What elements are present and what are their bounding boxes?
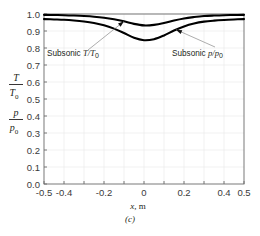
x-tick-label: -0.4 [56, 187, 72, 198]
x-tick-labels: -0.5 -0.4 -0.2 0 0.2 0.4 0.5 [36, 187, 251, 198]
x-tick-label: -0.2 [96, 187, 112, 198]
annotation-subscript-temperature: 0 [95, 52, 99, 59]
figure-caption: (c) [125, 214, 135, 224]
y-tick-label: 0.8 [27, 43, 40, 54]
x-tick-label: 0.2 [177, 187, 190, 198]
chart-canvas: 1.0 0.9 0.8 0.7 0.6 0.5 0.4 0.3 0.2 0.1 … [0, 0, 260, 236]
x-tick-label: 0.4 [217, 187, 230, 198]
y-tick-label: 0.3 [27, 128, 40, 139]
y-tick-labels: 1.0 0.9 0.8 0.7 0.6 0.5 0.4 0.3 0.2 0.1 … [27, 9, 40, 190]
x-tick-label: -0.5 [36, 187, 52, 198]
y-tick-label: 0.5 [27, 94, 40, 105]
annotation-symbol-pressure: p/p [207, 48, 220, 58]
x-axis-title: x, m [129, 201, 146, 211]
y-tick-label: 0.6 [27, 77, 40, 88]
y-axis-num-T: T [13, 72, 20, 83]
y-axis-title-temperature: T T0 [9, 72, 23, 101]
annotation-subscript-pressure: 0 [219, 52, 223, 59]
annotation-text-temperature: Subsonic [47, 49, 81, 58]
y-tick-label: 0.2 [27, 145, 40, 156]
y-axis-title-pressure: p p0 [9, 107, 23, 136]
x-tick-label: 0.5 [237, 187, 250, 198]
y-axis-den-p-sub: 0 [15, 128, 19, 136]
y-tick-label: 0.9 [27, 26, 40, 37]
svg-text:T0: T0 [9, 87, 19, 101]
y-axis-num-p: p [13, 107, 19, 118]
annotation-label-pressure: Subsonic p/p0 [172, 48, 223, 59]
figure-container: 1.0 0.9 0.8 0.7 0.6 0.5 0.4 0.3 0.2 0.1 … [0, 0, 260, 236]
y-tick-label: 1.0 [27, 9, 40, 20]
svg-text:p0: p0 [9, 122, 19, 136]
annotation-text-pressure: Subsonic [172, 49, 206, 58]
y-tick-label: 0.1 [27, 162, 40, 173]
x-tick-label: 0 [141, 187, 146, 198]
annotation-label-temperature: Subsonic T/T0 [47, 48, 99, 59]
x-axis-unit: , m [134, 201, 146, 211]
y-tick-label: 0.4 [27, 111, 40, 122]
y-axis-den-T-sub: 0 [15, 93, 19, 101]
svg-text:x, m: x, m [129, 201, 146, 211]
y-tick-label: 0.7 [27, 60, 40, 71]
